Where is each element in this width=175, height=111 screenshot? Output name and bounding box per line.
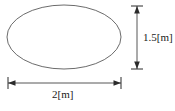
engineering-drawing-canvas bbox=[0, 0, 175, 111]
arrow-left-icon bbox=[8, 80, 16, 86]
height-dimension-label: 1.5[m] bbox=[143, 32, 173, 43]
ellipse-shape bbox=[7, 5, 121, 69]
height-dimension-group bbox=[131, 6, 143, 69]
arrow-right-icon bbox=[114, 80, 122, 86]
arrow-up-icon bbox=[134, 6, 140, 14]
width-dimension-label: 2[m] bbox=[52, 89, 73, 100]
figure-root: 1.5[m] 2[m] bbox=[0, 0, 175, 111]
arrow-down-icon bbox=[134, 62, 140, 70]
